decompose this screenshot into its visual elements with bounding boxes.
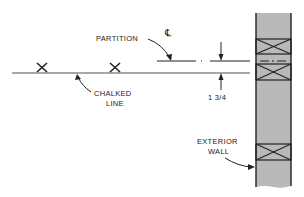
chalked-line-label-1: CHALKED	[94, 89, 132, 98]
dimension-label: 1 3/4	[208, 93, 226, 102]
x-mark-icon	[110, 63, 120, 72]
partition-leader-arrow	[148, 39, 172, 61]
exterior-wall	[256, 13, 291, 188]
dimension-arrow-down	[219, 42, 224, 61]
partition-label: PARTITION	[96, 34, 138, 43]
exterior-wall-label-1: EXTERIOR	[197, 137, 238, 146]
chalked-line-label-2: LINE	[106, 99, 124, 108]
dimension-arrow-up	[219, 73, 224, 90]
exterior-wall-label-2: WALL	[208, 147, 229, 156]
exterior-wall-leader-arrow	[225, 158, 255, 170]
centerline-symbol: ℄	[165, 28, 171, 37]
x-mark-icon	[37, 63, 47, 72]
chalked-line-leader-arrow	[75, 74, 91, 92]
partition-layout-diagram: PARTITION ℄ CHALKED LINE 1 3/4 EXTERIOR …	[0, 0, 304, 197]
diagram-drawing	[0, 0, 304, 197]
